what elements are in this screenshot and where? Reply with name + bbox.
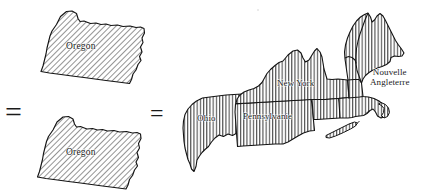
region-pennsylvania xyxy=(235,99,315,147)
label-oregon-top: Oregon xyxy=(66,41,96,52)
oregon-stack-group xyxy=(38,11,145,189)
label-oregon-bottom: Oregon xyxy=(66,147,96,158)
scan-speck xyxy=(257,9,259,11)
long-island xyxy=(326,122,358,138)
northeast-map-group xyxy=(183,13,404,172)
equals-sign-middle: = xyxy=(150,101,164,125)
label-pennsylvania: Pennsylvanie xyxy=(243,111,292,121)
label-ohio: Ohio xyxy=(197,113,216,123)
equals-sign-left: = xyxy=(5,97,22,127)
label-new-england: Nouvelle Angleterre xyxy=(370,67,409,87)
figure-canvas xyxy=(0,0,421,196)
region-new-york xyxy=(236,49,349,104)
label-new-york: New York xyxy=(277,78,314,88)
